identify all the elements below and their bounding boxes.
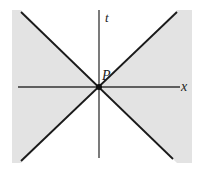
event-label-p: P [101,68,111,83]
t-axis-label: t [105,10,109,25]
light-cone-diagram: t P x [0,0,200,171]
event-point-p [96,84,102,90]
x-axis-label: x [180,79,188,94]
